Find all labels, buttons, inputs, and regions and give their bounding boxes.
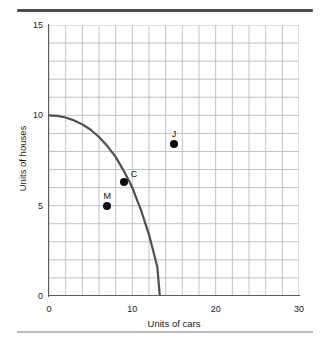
plot-canvas bbox=[49, 25, 299, 296]
x-axis-title: Units of cars bbox=[49, 318, 299, 329]
data-point-m bbox=[103, 202, 111, 210]
x-axis-line bbox=[48, 295, 300, 296]
data-point-label-c: C bbox=[131, 169, 138, 179]
x-tick-20: 20 bbox=[204, 304, 228, 314]
x-tick-10: 10 bbox=[120, 304, 144, 314]
grid-lines bbox=[49, 25, 299, 296]
x-tick-0: 0 bbox=[37, 304, 61, 314]
data-point-label-m: M bbox=[104, 191, 112, 201]
y-tick-15: 15 bbox=[19, 20, 43, 30]
figure-page: MCJ 051015 0102030 Units of cars Units o… bbox=[0, 0, 330, 344]
plot-area: MCJ bbox=[49, 25, 299, 296]
y-axis-line bbox=[48, 24, 49, 297]
bottom-divider-rule bbox=[17, 331, 313, 333]
x-tick-30: 30 bbox=[287, 304, 311, 314]
data-point-label-j: J bbox=[172, 129, 177, 139]
ppf-chart: MCJ 051015 0102030 Units of cars Units o… bbox=[0, 0, 330, 344]
y-axis-title: Units of houses bbox=[17, 89, 28, 229]
y-tick-0: 0 bbox=[19, 291, 43, 301]
